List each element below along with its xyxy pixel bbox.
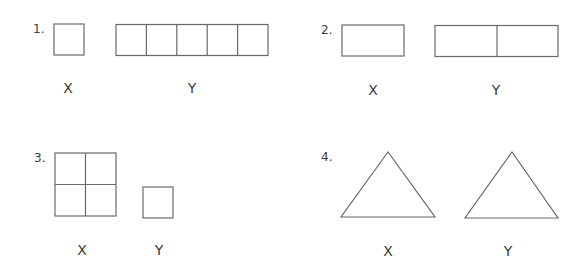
problem-4-label-y: Y (504, 244, 513, 258)
problem-3-label-x: X (77, 243, 87, 257)
problem-4-number: 4. (321, 151, 332, 163)
problem-3-number: 3. (34, 152, 45, 164)
problem-3-shape-x (55, 153, 116, 216)
problem-3-label-y: Y (155, 243, 164, 257)
problem-4-shape-y (465, 152, 558, 218)
problem-1-label-x: X (63, 81, 73, 95)
problem-1-label-y: Y (188, 81, 197, 95)
problem-1-shape-x (54, 24, 84, 55)
problem-2-label-y: Y (492, 83, 501, 97)
shapes-canvas (0, 0, 582, 263)
problem-1-shape-y (116, 25, 268, 56)
problem-2-shape-x (342, 25, 404, 56)
problem-4-label-x: X (383, 244, 393, 258)
problem-2-shape-y (435, 26, 558, 57)
problem-3-shape-y (143, 187, 173, 218)
problem-4-shape-x (341, 152, 435, 217)
problem-1-number: 1. (33, 23, 44, 35)
problem-2-number: 2. (321, 24, 332, 36)
problem-2-label-x: X (368, 83, 378, 97)
